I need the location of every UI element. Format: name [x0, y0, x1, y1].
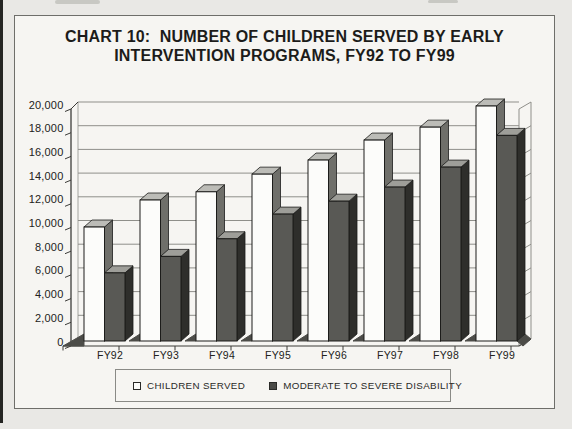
y-axis-label-8,000: 8,000 [35, 241, 64, 253]
legend-label-children-served: CHILDREN SERVED [147, 380, 245, 391]
bar-side-moderate-to-severe-disability-FY94 [237, 232, 245, 341]
y-axis-tick [65, 156, 71, 159]
y-axis-label-2,000: 2,000 [35, 312, 64, 324]
bar-moderate-to-severe-disability-FY94 [217, 239, 238, 341]
floor-wedge-FY92 [63, 334, 84, 346]
legend-item-moderate-severe: MODERATE TO SEVERE DISABILITY [269, 380, 462, 391]
bar-side-moderate-to-severe-disability-FY92 [125, 266, 133, 341]
y-axis-tick [65, 275, 71, 278]
bar-children-served-FY94 [196, 192, 217, 341]
bar-children-served-FY97 [364, 140, 385, 341]
y-axis-tick [65, 204, 71, 207]
x-axis-label-FY95: FY95 [265, 349, 291, 361]
bar-children-served-FY98 [420, 127, 441, 341]
bar-side-moderate-to-severe-disability-FY96 [349, 194, 357, 341]
y-axis-label-20,000: 20,000 [29, 99, 64, 111]
bar-moderate-to-severe-disability-FY92 [105, 273, 126, 341]
y-axis-tick [65, 133, 71, 136]
bar-children-served-FY93 [140, 200, 161, 341]
y-axis-tick [65, 109, 71, 112]
y-axis-label-10,000: 10,000 [29, 217, 64, 229]
y-axis-tick [65, 180, 71, 183]
legend-swatch-moderate-severe-icon [269, 382, 277, 390]
legend-label-moderate-severe: MODERATE TO SEVERE DISABILITY [283, 380, 462, 391]
x-axis-label-FY94: FY94 [209, 349, 235, 361]
bar-children-served-FY95 [252, 174, 273, 341]
y-axis-label-4,000: 4,000 [35, 288, 64, 300]
bar-side-moderate-to-severe-disability-FY95 [293, 207, 301, 341]
x-axis-label-FY98: FY98 [433, 349, 459, 361]
y-axis-label-6,000: 6,000 [35, 264, 64, 276]
bar-side-moderate-to-severe-disability-FY99 [517, 128, 525, 341]
bar-children-served-FY96 [308, 160, 329, 341]
chart-legend: CHILDREN SERVED MODERATE TO SEVERE DISAB… [115, 369, 451, 402]
y-axis-tick [65, 228, 71, 231]
x-axis-label-FY97: FY97 [377, 349, 403, 361]
y-axis-label-12,000: 12,000 [29, 193, 64, 205]
right-wall-gridline [519, 102, 531, 109]
legend-item-children-served: CHILDREN SERVED [133, 380, 245, 391]
bar-moderate-to-severe-disability-FY95 [273, 214, 294, 341]
bar-moderate-to-severe-disability-FY98 [441, 167, 462, 341]
y-axis-tick [65, 251, 71, 254]
bar-children-served-FY99 [476, 106, 497, 341]
bar-side-moderate-to-severe-disability-FY93 [181, 249, 189, 341]
y-axis-tick [65, 322, 71, 325]
x-axis-label-FY93: FY93 [153, 349, 179, 361]
x-axis-label-FY96: FY96 [321, 349, 347, 361]
y-axis-tick [65, 299, 71, 302]
x-axis-label-FY92: FY92 [97, 349, 123, 361]
axis-top-connector [71, 102, 78, 109]
bar-moderate-to-severe-disability-FY93 [161, 256, 182, 341]
legend-swatch-children-served-icon [133, 382, 141, 390]
bar-side-moderate-to-severe-disability-FY98 [461, 160, 469, 341]
y-axis-label-16,000: 16,000 [29, 146, 64, 158]
y-axis-label-18,000: 18,000 [29, 122, 64, 134]
scanned-report-page: CHART 10: NUMBER OF CHILDREN SERVED BY E… [0, 0, 572, 429]
bar-moderate-to-severe-disability-FY96 [329, 201, 350, 341]
bar-side-moderate-to-severe-disability-FY97 [405, 180, 413, 341]
bar-chart-3d: 02,0004,0006,0008,00010,00012,00014,0001… [0, 0, 572, 429]
bar-moderate-to-severe-disability-FY99 [497, 135, 518, 341]
x-axis-label-FY99: FY99 [489, 349, 515, 361]
y-axis-label-14,000: 14,000 [29, 170, 64, 182]
bar-children-served-FY92 [84, 227, 105, 341]
bar-moderate-to-severe-disability-FY97 [385, 187, 406, 341]
